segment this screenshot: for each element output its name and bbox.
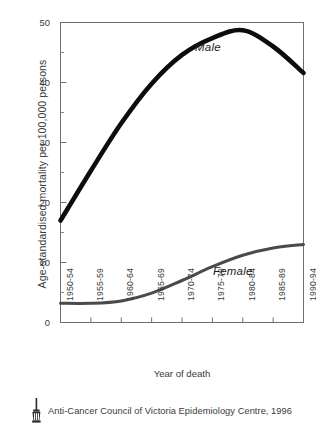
x-tick-label: 1970-74 — [186, 268, 196, 328]
y-tick-label: 0 — [24, 318, 50, 327]
x-tick-label: 1950-54 — [65, 268, 75, 328]
series-label-male: Male — [195, 41, 221, 53]
x-tick-label: 1975-79 — [216, 268, 226, 328]
x-axis-label: Year of death — [60, 368, 304, 379]
x-tick-label: 1965-69 — [156, 268, 166, 328]
y-tick-label: 40 — [24, 78, 50, 87]
y-tick-label: 10 — [24, 258, 50, 267]
anti-cancer-council-torch-icon — [30, 398, 43, 424]
chart-figure: Age-standardised mortality per 100,000 p… — [0, 0, 316, 434]
y-tick-label: 20 — [24, 198, 50, 207]
series-label-female: Female — [213, 265, 253, 277]
y-tick-label: 50 — [24, 18, 50, 27]
y-tick-label: 30 — [24, 138, 50, 147]
x-tick-label: 1960-64 — [125, 268, 135, 328]
x-tick-label: 1980-84 — [247, 268, 257, 328]
x-tick-label: 1955-59 — [95, 268, 105, 328]
x-tick-label: 1990-94 — [308, 268, 317, 328]
x-tick-label: 1985-89 — [277, 268, 287, 328]
source-credit: Anti-Cancer Council of Victoria Epidemio… — [30, 398, 292, 424]
source-credit-text: Anti-Cancer Council of Victoria Epidemio… — [48, 406, 292, 416]
